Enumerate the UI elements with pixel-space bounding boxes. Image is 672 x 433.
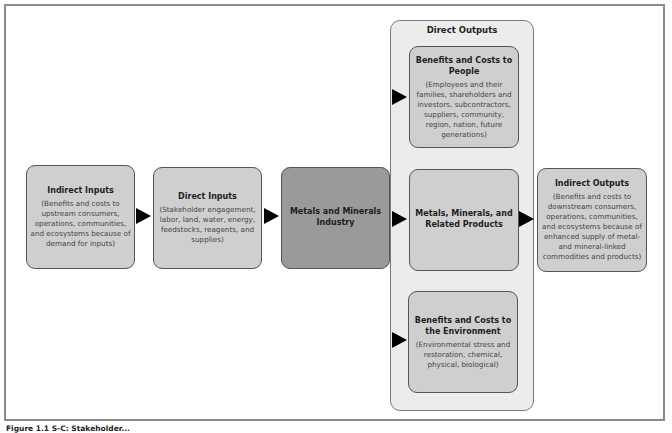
indirect-outputs-box: Indirect Outputs (Benefits and costs to … bbox=[537, 168, 647, 272]
indirect-outputs-title: Indirect Outputs bbox=[555, 178, 629, 189]
people-title: Benefits and Costs to People bbox=[413, 55, 515, 77]
arrow-right-icon bbox=[392, 89, 407, 105]
products-box: Metals, Minerals, and Related Products bbox=[409, 169, 519, 271]
indirect-inputs-box: Indirect Inputs (Benefits and costs to u… bbox=[26, 165, 135, 269]
direct-inputs-description: (Stakeholder engagement, labor, land, wa… bbox=[157, 205, 258, 245]
arrow-right-icon bbox=[519, 211, 534, 227]
direct-inputs-title: Direct Inputs bbox=[178, 191, 237, 202]
people-description: (Employees and their families, sharehold… bbox=[413, 80, 515, 140]
figure-caption: Figure 1.1 S-C: Stakeholder... bbox=[6, 424, 130, 433]
industry-title: Metals and Minerals Industry bbox=[285, 206, 386, 228]
environment-box: Benefits and Costs to the Environment (E… bbox=[408, 291, 518, 393]
direct-outputs-title: Direct Outputs bbox=[391, 25, 533, 35]
arrow-right-icon bbox=[136, 208, 151, 224]
products-title: Metals, Minerals, and Related Products bbox=[413, 208, 515, 230]
industry-box: Metals and Minerals Industry bbox=[281, 167, 390, 269]
arrow-right-icon bbox=[264, 208, 279, 224]
people-box: Benefits and Costs to People (Employees … bbox=[409, 46, 519, 148]
direct-inputs-box: Direct Inputs (Stakeholder engagement, l… bbox=[153, 167, 262, 269]
indirect-inputs-description: (Benefits and costs to upstream consumer… bbox=[30, 199, 131, 249]
indirect-outputs-description: (Benefits and costs to downstream consum… bbox=[541, 192, 643, 262]
arrow-right-icon bbox=[392, 211, 407, 227]
environment-description: (Environmental stress and restoration, c… bbox=[412, 340, 514, 370]
environment-title: Benefits and Costs to the Environment bbox=[412, 315, 514, 337]
indirect-inputs-title: Indirect Inputs bbox=[47, 185, 114, 196]
arrow-right-icon bbox=[392, 332, 407, 348]
